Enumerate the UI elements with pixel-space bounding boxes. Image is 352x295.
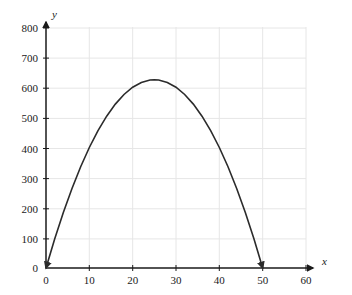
x-axis-label: x bbox=[321, 255, 327, 267]
ytick-label-800: 800 bbox=[22, 22, 39, 34]
parabola-chart: 0 10 20 30 40 50 60 0 100 200 300 400 50… bbox=[0, 0, 352, 295]
ytick-label-600: 600 bbox=[22, 82, 39, 94]
xtick-label-40: 40 bbox=[214, 274, 226, 286]
y-tick-labels: 0 100 200 300 400 500 600 700 800 bbox=[22, 22, 39, 274]
xtick-label-30: 30 bbox=[171, 274, 183, 286]
ytick-label-500: 500 bbox=[22, 112, 39, 124]
ytick-label-100: 100 bbox=[22, 233, 39, 245]
ytick-label-300: 300 bbox=[22, 173, 39, 185]
xtick-label-10: 10 bbox=[84, 274, 96, 286]
xtick-label-50: 50 bbox=[257, 274, 269, 286]
y-axis-label: y bbox=[51, 8, 57, 20]
ytick-label-400: 400 bbox=[22, 143, 39, 155]
ytick-label-700: 700 bbox=[22, 52, 39, 64]
xtick-label-0: 0 bbox=[43, 274, 49, 286]
xtick-label-60: 60 bbox=[301, 274, 313, 286]
ytick-label-0: 0 bbox=[33, 262, 39, 274]
chart-figure: 0 10 20 30 40 50 60 0 100 200 300 400 50… bbox=[0, 0, 352, 295]
ytick-label-200: 200 bbox=[22, 203, 39, 215]
xtick-label-20: 20 bbox=[127, 274, 139, 286]
